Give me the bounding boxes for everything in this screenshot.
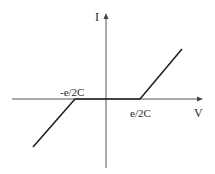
i-axis-arrow-icon xyxy=(104,13,109,19)
v-axis-arrow-icon xyxy=(197,97,203,102)
iv-curve xyxy=(33,49,182,147)
iv-diagram: I V -e/2C e/2C xyxy=(0,0,215,174)
negative-threshold-label: -e/2C xyxy=(60,86,84,98)
x-axis-label: V xyxy=(194,106,203,120)
y-axis-label: I xyxy=(95,10,99,24)
positive-threshold-label: e/2C xyxy=(130,107,151,119)
